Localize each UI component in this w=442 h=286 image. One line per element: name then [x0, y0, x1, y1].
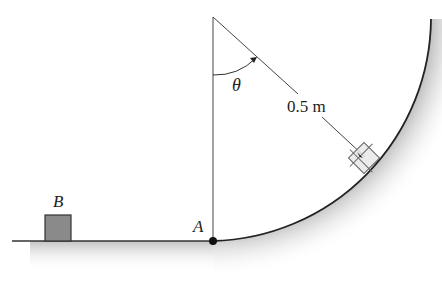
angle-arc — [213, 58, 256, 75]
radius-line-upper — [213, 17, 298, 94]
label-angle-theta: θ — [232, 76, 241, 94]
label-block-b: B — [53, 193, 63, 210]
diagram-canvas: B A θ 0.5 m — [0, 0, 442, 286]
label-radius: 0.5 m — [287, 98, 326, 115]
point-a-marker — [209, 237, 217, 245]
label-point-a: A — [193, 218, 203, 235]
block-b — [45, 215, 71, 241]
ground-shading — [30, 19, 442, 286]
diagram-svg — [0, 0, 442, 286]
